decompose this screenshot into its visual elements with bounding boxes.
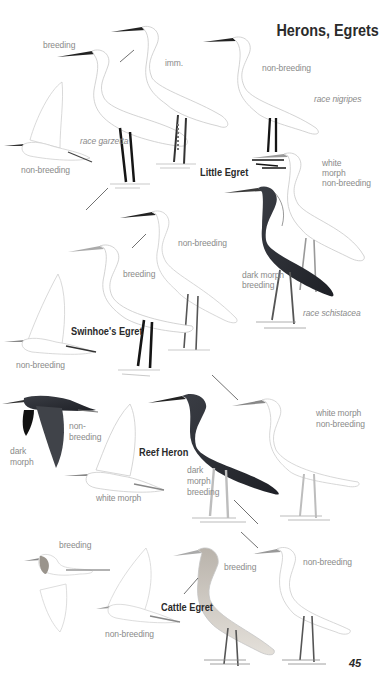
page-title: Herons, Egrets <box>277 22 379 40</box>
label-breeding: breeding <box>43 40 75 50</box>
label-reef-non-line1: non- <box>69 421 86 431</box>
label-swinhoe-non-breeding: non-breeding <box>178 238 227 248</box>
label-cattle-non-breeding: non-breeding <box>303 557 352 567</box>
species-name-swinhoes-egret: Swinhoe's Egret <box>71 325 143 337</box>
reef-heron-dark-morph-breeding-schistacea-illustration <box>224 187 333 328</box>
label-cattle-breeding: breeding <box>224 562 256 572</box>
label-reef-white-morph-line2: non-breeding <box>316 419 365 429</box>
species-name-cattle-egret: Cattle Egret <box>161 601 213 613</box>
label-race-schistacea: race schistacea <box>303 308 361 318</box>
label-swinhoe-breeding: breeding <box>123 269 155 279</box>
label-cattle-non-breeding-flight: non-breeding <box>105 629 154 639</box>
label-race-nigripes: race nigripes <box>314 94 361 104</box>
label-non-breeding-flight: non-breeding <box>21 165 70 175</box>
little-egret-flight-illustration <box>4 82 92 162</box>
swinhoes-egret-breeding-illustration <box>68 245 193 376</box>
label-white-morph-line2: morph <box>322 168 346 178</box>
species-name-reef-heron: Reef Heron <box>139 446 188 458</box>
label-white-morph-line1: white <box>322 158 341 168</box>
species-name-little-egret: Little Egret <box>200 166 248 178</box>
label-white-morph-line3: non-breeding <box>322 178 371 188</box>
page-number: 45 <box>349 657 361 669</box>
label-reef-white-morph-line1: white morph <box>316 408 361 418</box>
little-egret-imm-illustration <box>111 26 228 168</box>
label-race-garzetta: race garzetta <box>80 136 128 146</box>
label-dark-morph-line2: breeding <box>242 280 274 290</box>
label-reef-dark-line2: morph <box>10 457 34 467</box>
little-egret-breeding-illustration <box>57 50 187 188</box>
label-swinhoe-non-breeding-flight: non-breeding <box>16 360 65 370</box>
label-reef-dark-morph-line2: morph <box>187 476 211 486</box>
label-cattle-breeding-flight: breeding <box>59 540 91 550</box>
label-reef-non-line2: breeding <box>69 432 101 442</box>
field-guide-page: Herons, Egrets breeding imm. non-breedin… <box>0 0 389 687</box>
label-reef-dark-morph-line3: breeding <box>187 487 219 497</box>
little-egret-non-breeding-nigripes-illustration <box>203 37 318 168</box>
label-reef-dark-morph-line1: dark <box>187 465 203 475</box>
cattle-egret-breeding-flight-illustration <box>24 554 110 632</box>
swinhoes-egret-flight-illustration <box>4 274 96 354</box>
label-dark-morph-line1: dark morph <box>242 270 284 280</box>
label-imm: imm. <box>165 58 183 68</box>
label-non-breeding: non-breeding <box>262 63 311 73</box>
label-reef-white-morph-flight: white morph <box>96 493 141 503</box>
label-reef-dark-line1: dark <box>10 446 26 456</box>
